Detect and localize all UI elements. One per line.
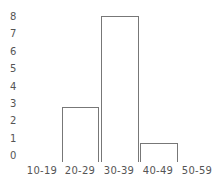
x-tick-label: 50-59 [177,165,217,177]
y-tick-label: 4 [10,82,16,92]
y-tick-label: 0 [10,151,16,161]
y-tick-label: 8 [10,12,16,22]
x-tick-label: 20-29 [60,165,100,177]
y-tick-label: 1 [10,134,16,144]
x-tick-label: 40-49 [138,165,178,177]
x-tick-label: 10-19 [22,165,62,177]
y-tick-label: 3 [10,99,16,109]
bar-30-39 [101,16,139,162]
y-tick-label: 2 [10,116,16,126]
bar-40-49 [140,143,178,162]
bar-20-29 [62,107,99,162]
y-tick-label: 6 [10,47,16,57]
y-tick-label: 7 [10,29,16,39]
x-tick-label: 30-39 [99,165,139,177]
y-tick-label: 5 [10,64,16,74]
